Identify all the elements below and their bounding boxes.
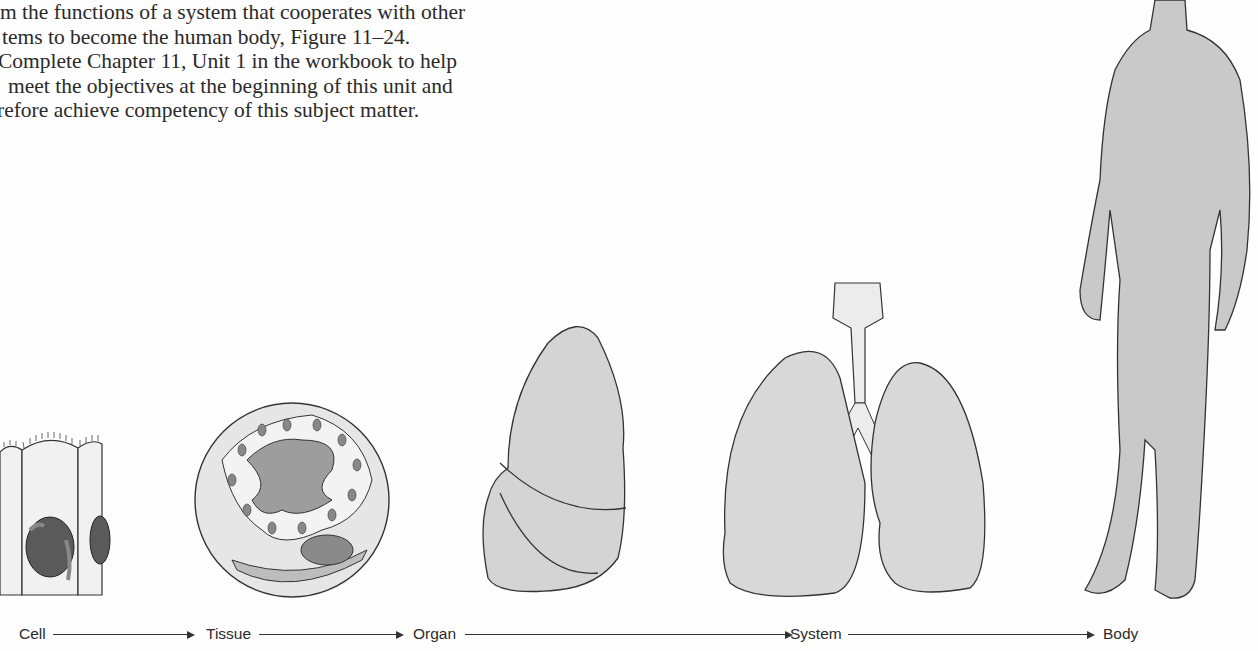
stage-label-tissue: Tissue — [206, 625, 251, 643]
cell-illustration — [0, 430, 102, 600]
stage-label-organ: Organ — [413, 625, 456, 643]
respiratory-system-illustration — [715, 283, 1000, 603]
human-body-illustration — [1075, 0, 1258, 605]
lung-organ-illustration — [478, 318, 638, 603]
arrow-icon — [259, 634, 402, 635]
stage-label-body: Body — [1103, 625, 1138, 643]
stage-label-system: System — [790, 625, 842, 643]
stage-label-cell: Cell — [19, 625, 46, 643]
tissue-illustration — [192, 400, 392, 600]
arrow-icon — [53, 634, 193, 635]
levels-of-organization-figure: Cell Tissue Organ System Body — [0, 0, 1258, 651]
arrow-icon — [848, 634, 1093, 635]
arrow-icon — [465, 634, 791, 635]
